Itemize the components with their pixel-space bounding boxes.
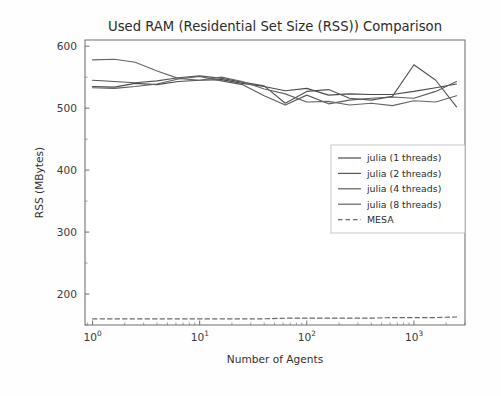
y-axis-label: RSS (MBytes): [33, 147, 45, 218]
x-tick-label: 102: [298, 329, 316, 343]
chart-canvas: 100101102103200300400500600Used RAM (Res…: [0, 0, 501, 396]
x-tick-label: 100: [84, 329, 102, 343]
legend-label-5: MESA: [367, 214, 394, 225]
y-tick-label: 300: [57, 226, 77, 238]
legend-label-3: julia (4 threads): [366, 183, 441, 194]
x-tick-label: 101: [191, 329, 209, 343]
legend-label-4: julia (8 threads): [366, 199, 441, 210]
y-tick-label: 600: [57, 40, 77, 52]
y-tick-label: 400: [57, 164, 77, 176]
legend-label-2: julia (2 threads): [366, 168, 441, 179]
x-tick-label: 103: [405, 329, 423, 343]
chart-figure: 100101102103200300400500600Used RAM (Res…: [0, 0, 501, 396]
x-axis-label: Number of Agents: [227, 353, 323, 365]
legend-label-1: julia (1 threads): [366, 152, 441, 163]
chart-title: Used RAM (Residential Set Size (RSS)) Co…: [108, 19, 442, 34]
y-tick-label: 500: [57, 102, 77, 114]
y-tick-label: 200: [57, 288, 77, 300]
